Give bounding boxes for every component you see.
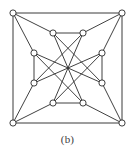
figure-caption: (b) xyxy=(0,133,135,145)
graph-edge-c-br-i-br xyxy=(83,103,122,123)
graph-edge-i-tl-i-rb xyxy=(53,33,102,83)
edge-layer xyxy=(13,13,122,123)
graph-edge-c-bl-i-bl xyxy=(13,103,53,123)
graph-vertex-inner-left-bottom xyxy=(31,80,37,86)
graph-vertex-inner-top-left xyxy=(50,30,56,36)
graph-edge-c-tl-i-tl xyxy=(13,13,53,33)
graph-edge-c-tl-i-lt xyxy=(13,13,34,53)
graph-edge-c-br-i-rb xyxy=(102,83,122,123)
graph-vertex-inner-bottom-left xyxy=(50,100,56,106)
graph-vertex-inner-left-top xyxy=(31,50,37,56)
graph-drawing xyxy=(0,0,135,136)
graph-vertex-corner-top-right xyxy=(119,10,125,16)
graph-vertex-corner-bottom-right xyxy=(119,120,125,126)
graph-vertex-inner-bottom-right xyxy=(80,100,86,106)
graph-vertex-corner-bottom-left xyxy=(10,120,16,126)
graph-edge-i-tr-i-lb xyxy=(34,33,83,83)
graph-edge-i-lt-i-br xyxy=(34,53,83,103)
figure-container: (b) xyxy=(0,0,135,153)
graph-edge-i-rt-i-bl xyxy=(53,53,102,103)
graph-vertex-corner-top-left xyxy=(10,10,16,16)
graph-edge-c-tr-i-tr xyxy=(83,13,122,33)
graph-vertex-inner-right-top xyxy=(99,50,105,56)
graph-vertex-inner-right-bottom xyxy=(99,80,105,86)
graph-vertex-inner-top-right xyxy=(80,30,86,36)
graph-edge-c-bl-i-lb xyxy=(13,83,34,123)
graph-edge-c-tr-i-rt xyxy=(102,13,122,53)
